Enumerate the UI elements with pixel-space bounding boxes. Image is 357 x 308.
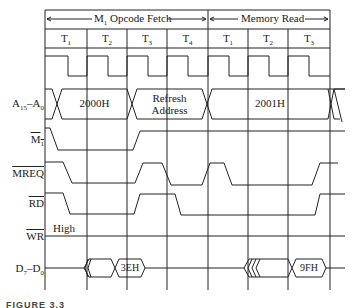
state-t: T bbox=[263, 32, 270, 44]
rd-name: RD bbox=[29, 197, 44, 209]
state-t1-b: T1 bbox=[208, 32, 248, 47]
state-sub: 2 bbox=[270, 39, 274, 47]
state-t1-a: T1 bbox=[45, 32, 87, 47]
signal-label-wr: WR bbox=[0, 230, 44, 242]
m1-sub: 1 bbox=[41, 140, 45, 148]
state-sub: 2 bbox=[109, 39, 113, 47]
data-name: D bbox=[16, 262, 24, 274]
addr-sub2: 0 bbox=[41, 104, 45, 112]
signal-label-mreq: MREQ bbox=[0, 167, 44, 179]
wr-high-note: High bbox=[53, 222, 75, 234]
figure-caption: FIGURE 3.3 bbox=[6, 300, 65, 308]
phase-m1-label: M bbox=[94, 12, 104, 24]
state-sub: 3 bbox=[311, 39, 315, 47]
signal-label-address: A15–A0 bbox=[0, 97, 44, 112]
state-t3-a: T3 bbox=[127, 32, 167, 47]
refresh-line1: Refresh bbox=[137, 92, 202, 104]
address-value-2001h: 2001H bbox=[212, 97, 328, 109]
phase-m1-suffix: Opcode Fetch bbox=[107, 12, 171, 24]
data-value-3eh: 3EH bbox=[115, 262, 145, 273]
state-sub: 3 bbox=[149, 39, 153, 47]
address-refresh: Refresh Address bbox=[137, 92, 202, 116]
state-t4-a: T4 bbox=[167, 32, 208, 47]
state-sub: 1 bbox=[230, 39, 234, 47]
addr-mid: –A bbox=[27, 97, 40, 109]
refresh-line2: Address bbox=[137, 104, 202, 116]
state-t: T bbox=[61, 32, 68, 44]
signal-label-rd: RD bbox=[0, 197, 44, 209]
addr-sub1: 15 bbox=[20, 104, 27, 112]
state-t: T bbox=[142, 32, 149, 44]
signal-label-data: D7–D0 bbox=[0, 262, 44, 277]
state-t3-b: T3 bbox=[288, 32, 330, 47]
m1-overline: M1 bbox=[31, 133, 44, 145]
state-t2-b: T2 bbox=[248, 32, 288, 47]
state-sub: 1 bbox=[68, 39, 72, 47]
state-sub: 4 bbox=[189, 39, 193, 47]
state-t: T bbox=[304, 32, 311, 44]
phase-m1-opcode-fetch: M1 Opcode Fetch bbox=[94, 12, 171, 27]
data-sub2: 0 bbox=[41, 269, 45, 277]
data-mid: –D bbox=[27, 262, 40, 274]
state-t: T bbox=[102, 32, 109, 44]
signal-label-m1: M1 bbox=[0, 133, 44, 148]
m1-name: M bbox=[31, 133, 41, 145]
address-value-2000h: 2000H bbox=[62, 97, 127, 109]
data-value-9fh: 9FH bbox=[292, 262, 326, 273]
wr-name: WR bbox=[26, 230, 44, 242]
phase-memory-read: Memory Read bbox=[241, 12, 304, 24]
addr-name: A bbox=[12, 97, 20, 109]
mreq-name: MREQ bbox=[12, 167, 44, 179]
state-t2-a: T2 bbox=[87, 32, 127, 47]
state-t: T bbox=[223, 32, 230, 44]
